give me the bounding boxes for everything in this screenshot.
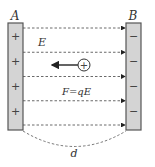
plus-charge-mark: + — [11, 105, 20, 118]
parallel-plate-diagram: A B ++++ −−−− E + F=qE d — [0, 0, 155, 167]
minus-charge-mark: − — [129, 80, 138, 93]
force-label: F=qE — [61, 86, 92, 97]
plus-charge-mark: + — [11, 55, 20, 68]
plate-b-label: B — [128, 9, 138, 23]
plus-charge-mark: + — [11, 80, 20, 93]
plus-charge-mark: + — [11, 30, 20, 43]
minus-charge-mark: − — [129, 30, 138, 43]
distance-arc — [23, 131, 126, 147]
test-charge-sign: + — [80, 60, 88, 71]
distance-label: d — [70, 147, 77, 160]
field-label: E — [37, 36, 46, 49]
minus-charge-mark: − — [129, 105, 138, 118]
minus-charge-mark: − — [129, 55, 138, 68]
plate-a-label: A — [10, 9, 20, 23]
